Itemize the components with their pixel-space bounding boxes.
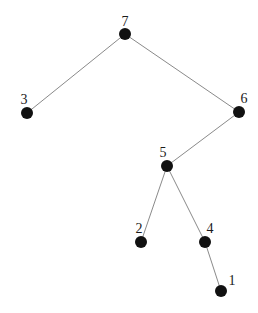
node-4	[199, 236, 211, 248]
node-label-1: 1	[229, 273, 236, 288]
node-2	[135, 236, 147, 248]
node-label-7: 7	[122, 14, 129, 29]
node-3	[21, 107, 33, 119]
edge-5-2	[141, 166, 167, 242]
edge-7-6	[125, 34, 239, 112]
node-1	[215, 285, 227, 297]
tree-diagram: 7365241	[0, 0, 258, 313]
edge-6-5	[167, 112, 239, 166]
edge-4-1	[205, 242, 221, 291]
edges-layer	[27, 34, 239, 291]
node-label-2: 2	[136, 221, 143, 236]
node-label-5: 5	[160, 145, 167, 160]
node-label-3: 3	[21, 92, 28, 107]
labels-layer: 7365241	[21, 14, 248, 288]
node-7	[119, 28, 131, 40]
node-label-4: 4	[207, 221, 214, 236]
edge-5-4	[167, 166, 205, 242]
nodes-layer	[21, 28, 245, 297]
node-5	[161, 160, 173, 172]
node-label-6: 6	[241, 91, 248, 106]
node-6	[233, 106, 245, 118]
edge-7-3	[27, 34, 125, 113]
